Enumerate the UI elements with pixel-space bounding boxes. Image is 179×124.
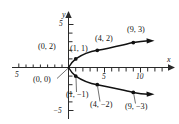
point-label-4-2: (4, 2)	[95, 35, 113, 43]
point-label-0-2: (0, 2)	[38, 43, 56, 51]
curve-lower-arrowhead	[147, 91, 155, 96]
x-axis-ticks-negative	[19, 64, 62, 68]
data-point-9-3	[131, 41, 135, 45]
x-axis-ticks-positive	[76, 68, 162, 73]
y-axis-label: y	[62, 11, 66, 19]
point-label-4-neg2: (4, −2)	[90, 101, 112, 109]
x-axis-label: x	[167, 56, 171, 64]
data-point-4-2	[95, 48, 99, 52]
point-label-0-0: (0, 0)	[33, 76, 51, 84]
x-tick-label-5: 5	[102, 73, 106, 81]
point-label-1-1: (1, 1)	[70, 45, 88, 53]
point-label-9-3: (9, 3)	[127, 26, 145, 34]
curve-upper-arrowhead	[147, 38, 155, 43]
data-point-1-1	[74, 57, 78, 61]
point-label-1-neg1: (1, −1)	[66, 91, 88, 99]
graph-figure: y x 5 5 10 5 −5 (0, 2) (0, 0) (1, 1) (4,…	[0, 0, 179, 124]
x-tick-label-negative-5: 5	[15, 71, 19, 79]
data-point-9-neg3	[131, 91, 135, 95]
y-tick-label-negative-5: −5	[53, 107, 62, 115]
data-point-1-neg1	[74, 74, 78, 78]
x-tick-label-10: 10	[136, 73, 144, 81]
y-axis-arrowhead	[65, 11, 71, 18]
y-axis-ticks-positive	[69, 25, 74, 59]
data-point-4-neg2	[95, 83, 99, 87]
y-tick-label-5: 5	[59, 20, 63, 28]
x-axis-arrowhead	[168, 64, 175, 70]
origin-leader-line	[57, 68, 68, 78]
point-label-9-neg3: (9, −3)	[125, 103, 147, 111]
